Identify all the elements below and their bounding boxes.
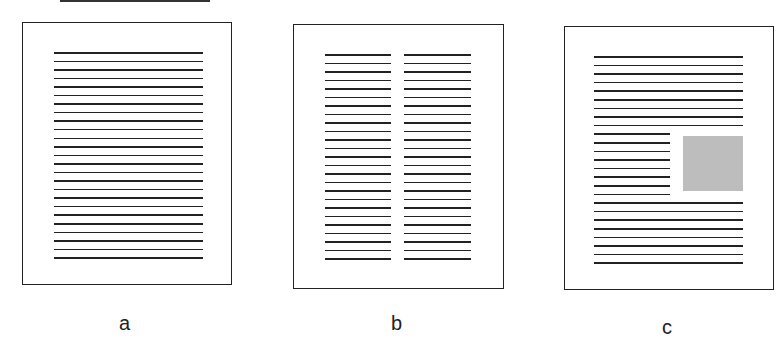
text-line	[404, 224, 471, 226]
text-line	[54, 78, 203, 80]
text-line	[404, 173, 471, 175]
label-c: c	[662, 316, 672, 339]
text-line	[325, 216, 391, 218]
text-line	[594, 176, 670, 178]
text-line	[594, 168, 670, 170]
text-line	[404, 233, 471, 235]
text-line	[404, 199, 471, 201]
text-line	[594, 219, 743, 221]
text-line	[54, 95, 203, 97]
text-line	[594, 90, 743, 92]
text-line	[325, 80, 391, 82]
text-line	[325, 250, 391, 252]
text-line	[54, 240, 203, 242]
text-line	[404, 97, 471, 99]
text-line	[404, 216, 471, 218]
text-line	[594, 159, 670, 161]
text-line	[594, 125, 743, 127]
text-line	[54, 138, 203, 140]
text-line	[404, 190, 471, 192]
text-line	[325, 54, 391, 56]
text-line	[54, 146, 203, 148]
text-line	[594, 116, 743, 118]
text-line	[325, 139, 391, 141]
text-line	[325, 105, 391, 107]
text-line	[594, 56, 743, 58]
text-line	[325, 156, 391, 158]
text-line	[54, 69, 203, 71]
figure-placeholder	[683, 136, 743, 191]
text-line	[594, 142, 670, 144]
page-a-single-column	[22, 22, 232, 285]
text-line	[594, 133, 670, 135]
text-line	[594, 262, 743, 264]
text-line	[54, 180, 203, 182]
text-line	[594, 185, 670, 187]
text-line	[404, 139, 471, 141]
text-line	[54, 232, 203, 234]
text-line	[54, 257, 203, 259]
text-line	[54, 189, 203, 191]
text-line	[594, 65, 743, 67]
text-line	[404, 114, 471, 116]
text-line	[325, 258, 391, 260]
text-line	[54, 172, 203, 174]
text-line	[404, 105, 471, 107]
text-line	[325, 190, 391, 192]
text-line	[594, 245, 743, 247]
text-line	[325, 182, 391, 184]
text-line	[54, 120, 203, 122]
text-line	[325, 63, 391, 65]
text-line	[54, 249, 203, 251]
text-line	[404, 71, 471, 73]
text-line	[325, 224, 391, 226]
page-b-two-column	[293, 24, 504, 289]
text-line	[404, 250, 471, 252]
text-line	[325, 88, 391, 90]
text-line	[54, 129, 203, 131]
text-line	[54, 61, 203, 63]
text-line	[325, 122, 391, 124]
text-line	[594, 194, 670, 196]
text-line	[404, 241, 471, 243]
text-line	[404, 207, 471, 209]
text-line	[325, 199, 391, 201]
label-a: a	[119, 312, 130, 335]
text-line	[404, 182, 471, 184]
text-line	[325, 241, 391, 243]
text-line	[594, 254, 743, 256]
top-rule	[60, 0, 210, 2]
text-line	[325, 114, 391, 116]
text-line	[54, 52, 203, 54]
text-line	[54, 206, 203, 208]
text-line	[54, 155, 203, 157]
text-line	[594, 108, 743, 110]
text-line	[404, 165, 471, 167]
text-line	[54, 112, 203, 114]
text-line	[54, 197, 203, 199]
text-line	[325, 131, 391, 133]
label-b: b	[391, 312, 402, 335]
text-line	[404, 131, 471, 133]
text-line	[54, 103, 203, 105]
text-line	[325, 207, 391, 209]
page-c-inset-figure	[564, 26, 774, 290]
text-line	[594, 202, 743, 204]
text-line	[325, 71, 391, 73]
text-line	[54, 163, 203, 165]
text-line	[594, 237, 743, 239]
text-line	[325, 233, 391, 235]
text-line	[404, 122, 471, 124]
text-line	[325, 165, 391, 167]
text-line	[54, 223, 203, 225]
text-line	[325, 148, 391, 150]
text-line	[404, 88, 471, 90]
text-line	[404, 258, 471, 260]
text-line	[404, 148, 471, 150]
text-line	[594, 73, 743, 75]
text-line	[325, 173, 391, 175]
text-line	[404, 54, 471, 56]
text-line	[404, 80, 471, 82]
text-line	[404, 156, 471, 158]
text-line	[594, 99, 743, 101]
